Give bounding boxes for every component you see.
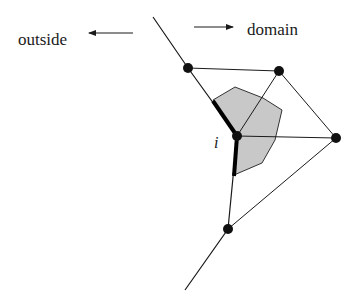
- node-i-label: i: [214, 134, 218, 151]
- outside-label: outside: [18, 30, 67, 49]
- control-volume-cell: [213, 87, 282, 175]
- domain-label: domain: [247, 20, 298, 39]
- mesh-diagram: outside domain i: [0, 0, 358, 307]
- node-icon: [274, 66, 284, 76]
- domain-boundary: [153, 17, 237, 290]
- mesh-edge: [279, 71, 336, 138]
- node-icon: [223, 224, 233, 234]
- node-i-icon: [232, 131, 242, 141]
- node-icon: [331, 133, 341, 143]
- mesh-edge: [188, 68, 279, 71]
- node-icon: [183, 63, 193, 73]
